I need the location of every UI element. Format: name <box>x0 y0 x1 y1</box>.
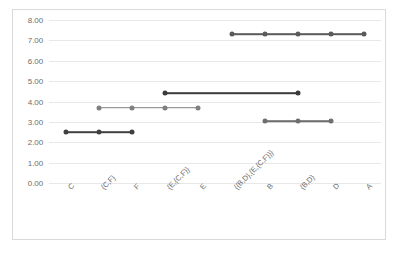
chart-frame: 8.007.006.005.004.003.002.001.000.00 C{C… <box>12 9 386 240</box>
series-data-point <box>163 105 168 110</box>
y-tick-label: 1.00 <box>28 158 43 167</box>
series-data-point <box>262 32 267 37</box>
series-line-segment <box>66 132 99 134</box>
y-tick-label: 4.00 <box>28 97 43 106</box>
y-tick-label: 7.00 <box>28 36 43 45</box>
gridline <box>49 20 381 21</box>
series-data-point <box>329 32 334 37</box>
gridline <box>49 61 381 62</box>
series-data-point <box>329 119 334 124</box>
y-tick-label: 2.00 <box>28 138 43 147</box>
series-data-point <box>196 105 201 110</box>
series-line-segment <box>132 107 165 109</box>
series-data-point <box>96 105 101 110</box>
series-data-point <box>130 105 135 110</box>
series-data-point <box>296 90 301 95</box>
gridline <box>49 102 381 103</box>
gridline <box>49 81 381 82</box>
series-line-segment <box>232 33 265 35</box>
series-data-point <box>130 130 135 135</box>
series-data-point <box>362 32 367 37</box>
series-line-segment <box>298 33 331 35</box>
y-tick-label: 8.00 <box>28 16 43 25</box>
series-line-segment <box>265 120 298 122</box>
series-line-segment <box>165 92 298 94</box>
y-tick-label: 3.00 <box>28 117 43 126</box>
y-tick-label: 5.00 <box>28 77 43 86</box>
series-data-point <box>63 130 68 135</box>
series-line-segment <box>331 33 364 35</box>
series-line-segment <box>265 33 298 35</box>
gridline <box>49 142 381 143</box>
x-axis: C{C,F}F{E,{C,F}}E{{B,D},{E,{C,F}}}B{B,D}… <box>49 185 381 240</box>
series-data-point <box>163 90 168 95</box>
series-line-segment <box>99 107 132 109</box>
series-line-segment <box>298 120 331 122</box>
series-line-segment <box>165 107 198 109</box>
y-axis: 8.007.006.005.004.003.002.001.000.00 <box>13 20 47 183</box>
series-data-point <box>96 130 101 135</box>
series-data-point <box>296 119 301 124</box>
series-data-point <box>296 32 301 37</box>
gridline <box>49 40 381 41</box>
y-tick-label: 6.00 <box>28 56 43 65</box>
y-tick-label: 0.00 <box>28 179 43 188</box>
plot-area <box>49 20 381 183</box>
series-data-point <box>229 32 234 37</box>
series-data-point <box>262 119 267 124</box>
series-line-segment <box>99 132 132 134</box>
gridline <box>49 163 381 164</box>
